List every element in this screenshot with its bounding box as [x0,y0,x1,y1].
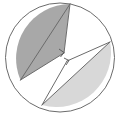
circle-geometry-diagram [0,0,120,117]
figure-container [0,0,120,117]
